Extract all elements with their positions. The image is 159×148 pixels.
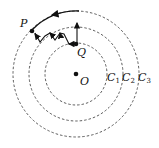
label-c3: C3 xyxy=(138,72,151,85)
label-c3-sub: 3 xyxy=(146,77,150,85)
label-c2: C2 xyxy=(122,72,135,85)
label-c1-sub: 1 xyxy=(115,77,119,85)
label-c1: C1 xyxy=(107,72,120,85)
point-o xyxy=(74,72,79,77)
diagram: P Q O C1 C2 C3 xyxy=(0,0,159,148)
label-p: P xyxy=(20,18,27,29)
label-c2-sub: 2 xyxy=(130,77,134,85)
label-q: Q xyxy=(77,47,86,58)
label-o: O xyxy=(80,76,89,87)
point-p xyxy=(30,29,35,34)
